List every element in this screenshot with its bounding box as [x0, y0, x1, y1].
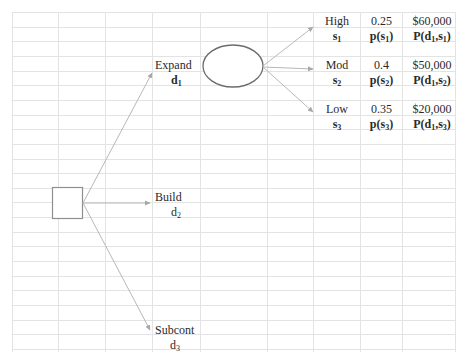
state-arrow-low — [263, 67, 313, 112]
chance-node-ellipse[interactable] — [203, 45, 263, 87]
state-label-high: High — [314, 14, 360, 28]
payoff-symbol-d1-s2: P(d1,s2) — [403, 73, 461, 91]
paren: ) — [389, 29, 393, 43]
payoff-mod: $50,000 — [403, 58, 461, 72]
prob-symbol-s2: p(s2) — [361, 73, 402, 91]
state-label-mod: Mod — [314, 58, 360, 72]
probability-mod: 0.4 — [361, 58, 402, 72]
paren: ) — [447, 117, 451, 131]
payoff-low: $20,000 — [403, 102, 461, 116]
subscript: 3 — [337, 123, 341, 132]
P-symbol: P(d — [413, 73, 431, 87]
branch-arrow-subcont — [83, 203, 150, 330]
subscript: 2 — [337, 79, 341, 88]
decision-symbol-d1: d1 — [171, 73, 182, 91]
state-symbol-s1: s1 — [314, 29, 360, 47]
p-symbol: p(s — [370, 117, 385, 131]
payoff-symbol-d1-s3: P(d1,s3) — [403, 117, 461, 135]
payoff-high: $60,000 — [403, 14, 461, 28]
state-label-low: Low — [314, 102, 360, 116]
decision-node-square[interactable] — [53, 188, 83, 219]
decision-label-subcont: Subcont — [155, 323, 194, 337]
state-arrow-high — [263, 27, 313, 66]
probability-low: 0.35 — [361, 102, 402, 116]
decision-symbol-d2: d2 — [171, 205, 181, 223]
p-symbol: p(s — [370, 73, 385, 87]
branch-arrow-expand — [83, 73, 152, 203]
P-symbol: P(d — [413, 29, 431, 43]
subscript: 1 — [178, 79, 182, 88]
probability-high: 0.25 — [361, 14, 402, 28]
paren: ) — [389, 117, 393, 131]
comma-s: ,s — [435, 117, 443, 131]
paren: ) — [447, 73, 451, 87]
paren: ) — [447, 29, 451, 43]
subscript: 1 — [337, 35, 341, 44]
payoff-symbol-d1-s1: P(d1,s1) — [403, 29, 461, 47]
decision-label-build: Build — [155, 190, 182, 204]
decision-tree — [0, 0, 467, 361]
p-symbol: p(s — [370, 29, 385, 43]
paren: ) — [389, 73, 393, 87]
state-arrow-mod — [263, 67, 313, 69]
comma-s: ,s — [435, 29, 443, 43]
decision-symbol-d3: d3 — [170, 338, 180, 356]
prob-symbol-s3: p(s3) — [361, 117, 402, 135]
P-symbol: P(d — [413, 117, 431, 131]
comma-s: ,s — [435, 73, 443, 87]
state-symbol-s2: s2 — [314, 73, 360, 91]
prob-symbol-s1: p(s1) — [361, 29, 402, 47]
decision-label-expand: Expand — [155, 58, 192, 72]
d-symbol: d — [171, 73, 178, 87]
subscript: 3 — [176, 344, 180, 353]
state-symbol-s3: s3 — [314, 117, 360, 135]
subscript: 2 — [177, 211, 181, 220]
